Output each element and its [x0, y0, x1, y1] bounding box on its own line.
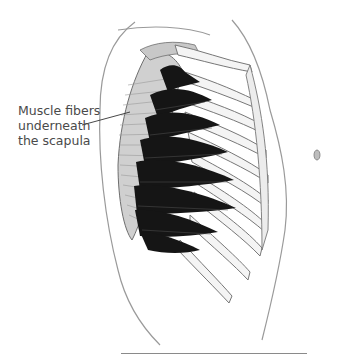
rib-cage-illustration: [0, 0, 338, 358]
callout-line-2: underneath: [18, 118, 128, 133]
bottom-divider: [121, 353, 307, 354]
callout-line-3: the scapula: [18, 133, 128, 148]
anatomy-figure: Muscle fibers underneath the scapula: [0, 0, 338, 358]
nipple: [314, 150, 320, 160]
callout-label: Muscle fibers underneath the scapula: [18, 103, 128, 148]
callout-line-1: Muscle fibers: [18, 103, 128, 118]
